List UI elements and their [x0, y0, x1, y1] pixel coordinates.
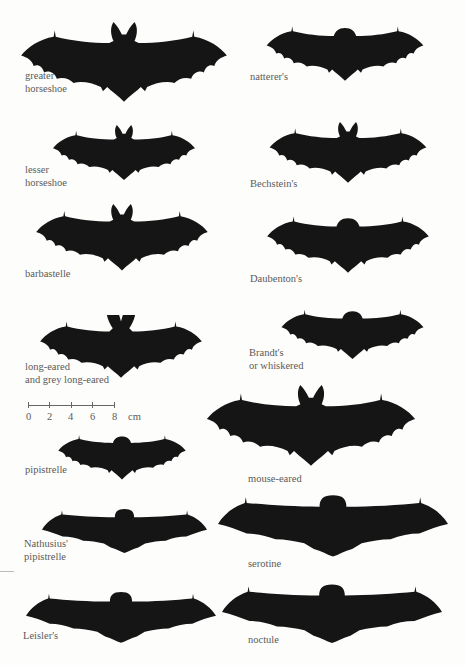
- bat-silhouette-serotine: [218, 488, 448, 558]
- scale-tick: [92, 402, 93, 408]
- label-leislers: Leisler's: [23, 629, 58, 642]
- scale-tick: [28, 402, 29, 408]
- label-bechsteins: Bechstein's: [250, 177, 297, 190]
- scale-label: 8: [112, 411, 117, 422]
- scale-label: 0: [26, 411, 31, 422]
- bat-silhouette-mouse-eared: [176, 385, 446, 470]
- label-natterers: natterer's: [250, 70, 288, 83]
- label-barbastelle: barbastelle: [25, 267, 70, 280]
- scale-tick: [114, 402, 115, 408]
- label-lesser-horseshoe: lesser horseshoe: [25, 163, 67, 189]
- scale-label: 2: [47, 411, 52, 422]
- page-edge-mark: [0, 571, 14, 572]
- bat-silhouette-barbastelle: [32, 204, 212, 274]
- label-daubentons: Daubenton's: [250, 272, 302, 285]
- label-pipistrelle: pipistrelle: [25, 463, 67, 476]
- label-greater-horseshoe: greater horseshoe: [25, 69, 67, 95]
- label-serotine: serotine: [248, 557, 281, 570]
- bat-silhouette-lesser-horseshoe: [44, 125, 204, 183]
- label-nathusius-pipistrelle: Nathusius' pipistrelle: [24, 537, 68, 563]
- scale-bar: 0 2 4 6 8 cm: [28, 402, 168, 426]
- label-mouse-eared: mouse-eared: [248, 472, 302, 485]
- scale-tick: [71, 402, 72, 408]
- label-brandts: Brandt's or whiskered: [249, 346, 304, 372]
- scale-label: 6: [90, 411, 95, 422]
- label-long-eared: long-eared and grey long-eared: [25, 360, 109, 386]
- scale-tick: [49, 402, 50, 408]
- scale-unit: cm: [128, 411, 141, 422]
- label-noctule: noctule: [248, 633, 279, 646]
- bat-silhouette-daubentons: [252, 210, 444, 276]
- scale-label: 4: [68, 411, 73, 422]
